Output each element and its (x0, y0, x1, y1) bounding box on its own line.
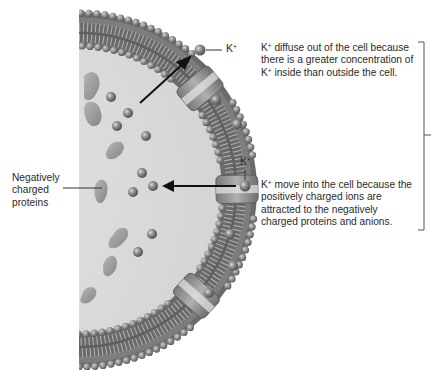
diffuse-out-caption: K+ diffuse out of the cell because there… (261, 42, 413, 79)
k-ion-label-right: K+ (240, 155, 251, 167)
bracket (418, 42, 431, 230)
move-in-caption: K+ move into the cell because the positi… (261, 179, 412, 229)
membrane-diagram: K+ K+ Negatively charged proteins K+ dif… (0, 0, 431, 370)
negative-proteins-label: Negatively charged proteins (12, 172, 60, 209)
k-ion-label-top: K+ (226, 42, 237, 54)
channel-protein-middle (216, 175, 258, 204)
